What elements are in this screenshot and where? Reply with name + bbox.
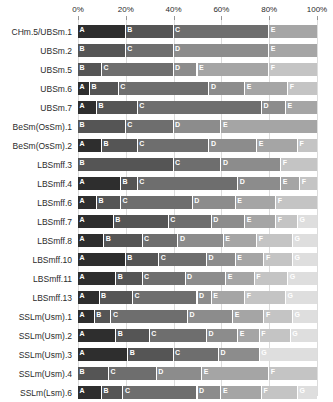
bar-segment-f[interactable]: F	[276, 215, 298, 228]
bar-segment-f[interactable]: F	[281, 158, 317, 171]
bar-segment-b[interactable]: B	[126, 25, 174, 38]
bar-segment-c[interactable]: C	[174, 348, 219, 361]
bar-segment-c[interactable]: C	[102, 63, 174, 76]
bar-segment-d[interactable]: D	[207, 329, 238, 342]
bar-segment-d[interactable]: D	[209, 82, 245, 95]
bar-segment-b[interactable]: B	[128, 348, 173, 361]
bar-segment-b[interactable]: B	[97, 101, 138, 114]
bar-segment-e[interactable]: E	[245, 215, 276, 228]
bar-segment-b[interactable]: B	[78, 44, 126, 57]
bar-segment-b[interactable]: B	[121, 177, 138, 190]
bar-segment-e[interactable]: E	[221, 386, 262, 399]
bar-segment-b[interactable]: B	[78, 120, 126, 133]
bar-segment-f[interactable]: F	[257, 234, 293, 247]
bar-segment-a[interactable]: A	[78, 272, 116, 285]
bar-segment-g[interactable]: G	[298, 215, 317, 228]
bar-segment-a[interactable]: A	[78, 177, 121, 190]
bar-segment-f[interactable]: F	[298, 139, 317, 152]
bar-segment-f[interactable]: F	[264, 310, 293, 323]
bar-segment-c[interactable]: C	[133, 291, 198, 304]
bar-segment-c[interactable]: C	[126, 120, 174, 133]
bar-segment-d[interactable]: D	[174, 63, 198, 76]
bar-segment-d[interactable]: D	[174, 120, 222, 133]
bar-segment-f[interactable]: F	[262, 386, 298, 399]
bar-segment-b[interactable]: B	[78, 367, 109, 380]
bar-segment-e[interactable]: E	[202, 367, 269, 380]
bar-segment-d[interactable]: D	[198, 291, 212, 304]
bar-segment-f[interactable]: F	[260, 329, 291, 342]
bar-segment-g[interactable]: G	[291, 329, 317, 342]
bar-segment-b[interactable]: B	[126, 253, 159, 266]
bar-segment-c[interactable]: C	[174, 158, 222, 171]
bar-segment-c[interactable]: C	[159, 253, 207, 266]
bar-segment-a[interactable]: A	[78, 82, 90, 95]
bar-segment-a[interactable]: A	[78, 253, 126, 266]
bar-segment-e[interactable]: E	[224, 234, 257, 247]
bar-segment-d[interactable]: D	[221, 158, 281, 171]
bar-segment-b[interactable]: B	[90, 82, 119, 95]
bar-segment-a[interactable]: A	[78, 310, 95, 323]
bar-segment-c[interactable]: C	[119, 82, 210, 95]
bar-segment-d[interactable]: D	[262, 101, 286, 114]
bar-segment-g[interactable]: G	[293, 234, 317, 247]
bar-segment-c[interactable]: C	[143, 272, 186, 285]
bar-segment-a[interactable]: A	[78, 139, 102, 152]
bar-segment-c[interactable]: C	[138, 177, 238, 190]
bar-segment-c[interactable]: C	[138, 101, 262, 114]
bar-segment-b[interactable]: B	[78, 63, 102, 76]
bar-segment-f[interactable]: F	[288, 82, 317, 95]
bar-segment-d[interactable]: D	[198, 386, 222, 399]
bar-segment-e[interactable]: E	[281, 177, 300, 190]
bar-segment-e[interactable]: E	[198, 63, 270, 76]
bar-segment-e[interactable]: E	[286, 101, 317, 114]
bar-segment-e[interactable]: E	[236, 196, 277, 209]
bar-segment-g[interactable]: G	[293, 310, 317, 323]
bar-segment-c[interactable]: C	[121, 196, 193, 209]
bar-segment-a[interactable]: A	[78, 386, 102, 399]
bar-segment-g[interactable]: G	[298, 386, 317, 399]
bar-segment-e[interactable]: E	[236, 253, 265, 266]
bar-segment-d[interactable]: D	[178, 234, 223, 247]
bar-segment-b[interactable]: B	[102, 139, 138, 152]
bar-segment-e[interactable]: E	[226, 272, 255, 285]
bar-segment-a[interactable]: A	[78, 101, 97, 114]
bar-segment-d[interactable]: D	[174, 44, 270, 57]
bar-segment-c[interactable]: C	[123, 386, 197, 399]
bar-segment-f[interactable]: F	[269, 367, 317, 380]
bar-segment-f[interactable]: F	[264, 253, 293, 266]
bar-segment-b[interactable]: B	[104, 234, 142, 247]
bar-segment-a[interactable]: A	[78, 291, 100, 304]
bar-segment-b[interactable]: B	[97, 196, 121, 209]
bar-segment-d[interactable]: D	[188, 310, 233, 323]
bar-segment-d[interactable]: D	[212, 215, 245, 228]
bar-segment-a[interactable]: A	[78, 196, 97, 209]
bar-segment-b[interactable]: B	[95, 310, 112, 323]
bar-segment-c[interactable]: C	[126, 44, 174, 57]
bar-segment-b[interactable]: B	[116, 329, 149, 342]
bar-segment-g[interactable]: G	[286, 291, 317, 304]
bar-segment-c[interactable]: C	[143, 234, 179, 247]
bar-segment-d[interactable]: D	[209, 139, 257, 152]
bar-segment-d[interactable]: D	[193, 196, 236, 209]
bar-segment-e[interactable]: E	[238, 329, 260, 342]
bar-segment-e[interactable]: E	[257, 139, 298, 152]
bar-segment-f[interactable]: F	[269, 63, 317, 76]
bar-segment-d[interactable]: D	[157, 367, 202, 380]
bar-segment-d[interactable]: D	[219, 348, 260, 361]
bar-segment-a[interactable]: A	[78, 215, 114, 228]
bar-segment-e[interactable]: E	[233, 310, 264, 323]
bar-segment-b[interactable]: B	[116, 272, 142, 285]
bar-segment-d[interactable]: D	[238, 177, 281, 190]
bar-segment-a[interactable]: A	[78, 329, 116, 342]
bar-segment-g[interactable]: G	[293, 253, 317, 266]
bar-segment-c[interactable]: C	[169, 215, 212, 228]
bar-segment-b[interactable]: B	[100, 291, 133, 304]
bar-segment-a[interactable]: A	[78, 25, 126, 38]
bar-segment-a[interactable]: A	[78, 234, 104, 247]
bar-segment-c[interactable]: C	[174, 25, 270, 38]
bar-segment-f[interactable]: F	[245, 291, 286, 304]
bar-segment-g[interactable]: G	[260, 348, 317, 361]
bar-segment-e[interactable]: E	[221, 120, 317, 133]
bar-segment-c[interactable]: C	[138, 139, 210, 152]
bar-segment-c[interactable]: C	[111, 310, 187, 323]
